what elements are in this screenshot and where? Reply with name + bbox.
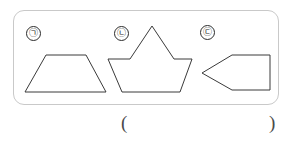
shape-left-arrow-pentagon	[196, 50, 278, 94]
shape-trapezoid-svg	[20, 50, 112, 96]
answer-value[interactable]	[133, 114, 267, 134]
shape-crown-outline	[108, 26, 192, 92]
shape-crown	[108, 22, 192, 96]
shape-crown-svg	[108, 22, 192, 96]
figure-marker-giyeok: ㉠	[26, 26, 41, 41]
answer-close-paren: )	[269, 112, 275, 134]
figure-marker-digeut: ㉢	[200, 25, 215, 40]
shape-trapezoid	[20, 50, 112, 96]
answer-open-paren: (	[121, 112, 127, 134]
shape-left-arrow-pentagon-outline	[202, 55, 270, 90]
worksheet-page: ㉠ ㉡ ㉢ ( )	[0, 0, 292, 147]
figure-marker-digeut-text: ㉢	[203, 28, 212, 37]
figure-marker-giyeok-text: ㉠	[29, 29, 38, 38]
shape-trapezoid-outline	[25, 55, 106, 92]
shape-left-arrow-pentagon-svg	[196, 50, 278, 94]
answer-blank-row: ( )	[0, 112, 292, 138]
